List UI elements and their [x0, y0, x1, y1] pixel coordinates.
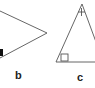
right-angle-mark-b — [0, 49, 3, 56]
triangle-c-left-edge — [56, 4, 82, 62]
figure-label-b: b — [15, 70, 22, 81]
triangle-c — [56, 4, 95, 62]
triangle-b — [0, 11, 47, 58]
triangle-b-upper-edge — [0, 11, 47, 33]
triangle-c-right-edge — [82, 4, 95, 42]
right-angle-mark-c — [61, 54, 68, 61]
triangle-b-lower-edge — [0, 33, 47, 58]
figure-label-c: c — [77, 72, 83, 83]
